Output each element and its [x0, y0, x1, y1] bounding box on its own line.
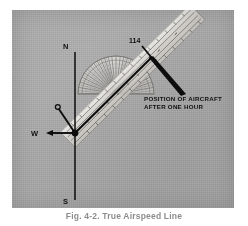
figure-caption: Fig. 4-2. True Airspeed Line — [0, 212, 248, 226]
navigation-diagram: N W S 114 P POSITION OF AIRCRAFT AFTER O… — [12, 10, 234, 208]
west-arrowhead — [46, 130, 53, 136]
figure-caption-text: Fig. 4-2. True Airspeed Line — [0, 212, 248, 221]
callout-line-2: AFTER ONE HOUR — [144, 103, 203, 110]
label-point-p: P — [153, 58, 157, 64]
label-south: S — [63, 197, 68, 206]
wind-vector-head — [55, 105, 60, 110]
callout-line-1: POSITION OF AIRCRAFT — [144, 95, 222, 102]
label-heading-value: 114 — [129, 37, 140, 44]
figure-root: N W S 114 P POSITION OF AIRCRAFT AFTER O… — [0, 0, 248, 226]
figure-photo-plate: N W S 114 P POSITION OF AIRCRAFT AFTER O… — [12, 10, 234, 208]
label-north: N — [63, 42, 68, 51]
origin-marker — [72, 130, 79, 137]
label-west: W — [31, 129, 39, 138]
